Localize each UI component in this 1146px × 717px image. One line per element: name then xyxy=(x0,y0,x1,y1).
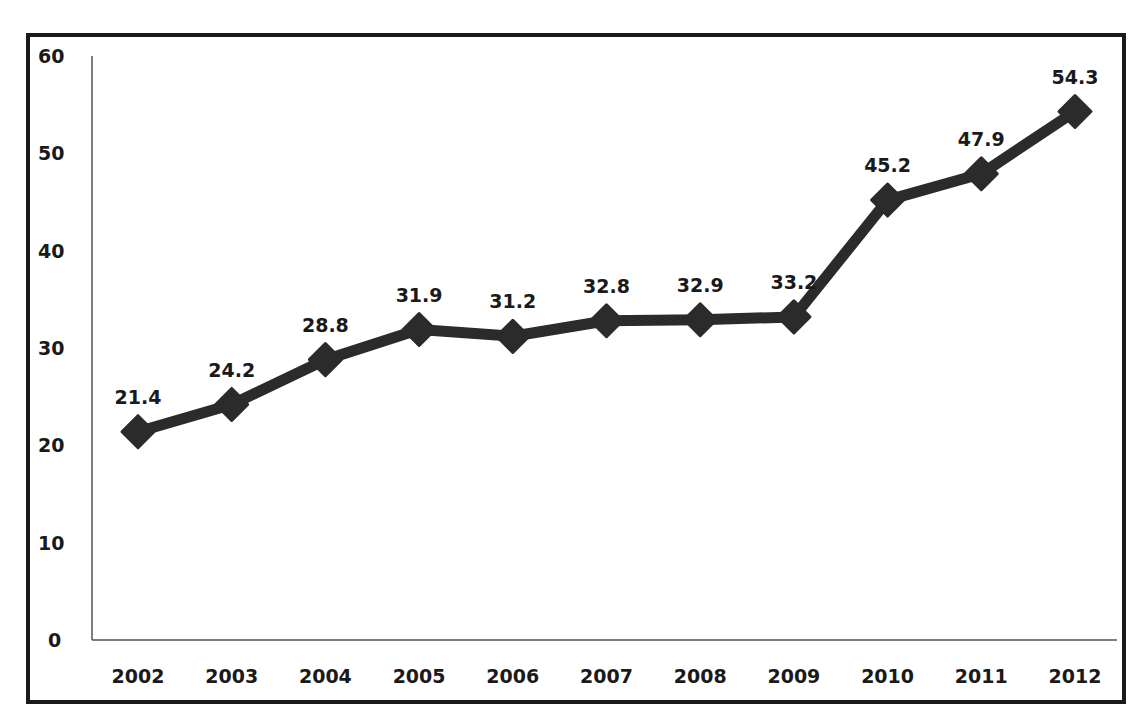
y-tick-label: 30 xyxy=(38,337,64,359)
data-label: 24.2 xyxy=(208,359,255,381)
x-tick-label: 2008 xyxy=(674,665,727,687)
series-line xyxy=(138,112,1075,432)
data-label: 28.8 xyxy=(302,314,349,336)
data-label: 33.2 xyxy=(770,271,817,293)
series-markers xyxy=(122,95,1091,447)
y-tick-label: 40 xyxy=(38,240,64,262)
diamond-marker xyxy=(591,305,623,337)
y-axis-ticks: 0102030405060 xyxy=(38,45,64,651)
data-labels: 21.424.228.831.931.232.832.933.245.247.9… xyxy=(115,66,1099,408)
diamond-marker xyxy=(684,304,716,336)
x-axis-ticks: 2002200320042005200620072008200920102011… xyxy=(112,665,1102,687)
data-label: 21.4 xyxy=(115,386,162,408)
diamond-marker xyxy=(497,320,529,352)
x-tick-label: 2003 xyxy=(205,665,258,687)
data-label: 45.2 xyxy=(864,154,911,176)
x-tick-label: 2012 xyxy=(1049,665,1102,687)
data-label: 47.9 xyxy=(958,128,1005,150)
data-label: 31.2 xyxy=(489,290,536,312)
x-tick-label: 2009 xyxy=(767,665,820,687)
y-tick-label: 10 xyxy=(38,532,64,554)
diamond-marker xyxy=(403,314,435,346)
y-tick-label: 50 xyxy=(38,142,64,164)
x-tick-label: 2002 xyxy=(112,665,165,687)
data-label: 54.3 xyxy=(1052,66,1099,88)
x-tick-label: 2007 xyxy=(580,665,633,687)
x-tick-label: 2010 xyxy=(861,665,914,687)
data-label: 32.8 xyxy=(583,275,630,297)
x-tick-label: 2004 xyxy=(299,665,352,687)
x-tick-label: 2005 xyxy=(393,665,446,687)
line-chart: 0102030405060 20022003200420052006200720… xyxy=(0,0,1146,717)
data-label: 32.9 xyxy=(677,274,724,296)
x-tick-label: 2006 xyxy=(486,665,539,687)
data-label: 31.9 xyxy=(396,284,443,306)
diamond-marker xyxy=(122,416,154,448)
x-tick-label: 2011 xyxy=(955,665,1008,687)
y-tick-label: 0 xyxy=(48,629,61,651)
y-tick-label: 20 xyxy=(38,434,64,456)
y-tick-label: 60 xyxy=(38,45,64,67)
